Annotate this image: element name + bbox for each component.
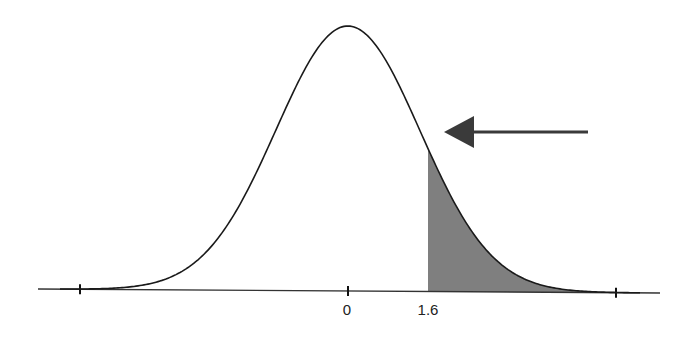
cutoff-label: 1.6 — [418, 301, 439, 318]
mean-label: 0 — [343, 301, 351, 318]
shaded-tail-region — [428, 149, 640, 293]
normal-distribution-diagram — [0, 0, 687, 344]
bell-curve — [60, 26, 640, 293]
left-arrow-icon — [444, 116, 588, 148]
arrow-head — [444, 116, 474, 148]
